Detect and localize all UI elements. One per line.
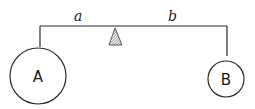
mass-b-label: B bbox=[221, 71, 231, 89]
left-arm-label: a bbox=[74, 8, 82, 24]
right-arm-label: b bbox=[168, 8, 177, 24]
fulcrum-triangle bbox=[109, 28, 122, 45]
lever-diagram: a b A B bbox=[0, 0, 255, 109]
mass-a-label: A bbox=[33, 68, 44, 86]
